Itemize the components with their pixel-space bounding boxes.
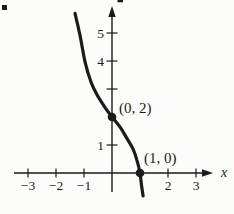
figure-page: x−3−2−123145(0, 2)(1, 0) — [0, 0, 234, 214]
y-tick-label-4: 4 — [97, 54, 104, 69]
x-tick-label--1: −1 — [77, 178, 91, 193]
x-tick-label--3: −3 — [21, 178, 36, 193]
x-tick-label--2: −2 — [49, 178, 63, 193]
y-axis-arrowhead-icon — [108, 6, 115, 17]
point-label-0: (0, 2) — [119, 100, 152, 117]
function-graph: x−3−2−123145(0, 2)(1, 0) — [0, 0, 234, 214]
x-axis-arrowhead-icon — [202, 169, 213, 176]
point-dot-0 — [108, 113, 117, 122]
point-label-1: (1, 0) — [144, 150, 177, 167]
x-tick-label-3: 3 — [193, 178, 200, 193]
y-tick-label-1: 1 — [97, 138, 104, 153]
y-axis-label-clipped — [118, 0, 124, 2]
y-tick-label-5: 5 — [97, 26, 104, 41]
x-axis-label: x — [220, 165, 228, 180]
x-tick-label-2: 2 — [165, 178, 172, 193]
point-dot-1 — [136, 169, 145, 178]
